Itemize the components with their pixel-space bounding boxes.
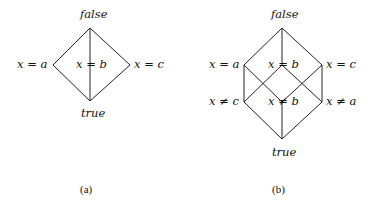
node-b-x-neq-c: x ≠ c xyxy=(209,96,239,108)
node-b-x-eq-c: x = c xyxy=(326,59,356,71)
lattice-diagrams xyxy=(0,0,373,206)
node-b-true: true xyxy=(272,147,296,159)
caption-a: (a) xyxy=(80,183,92,195)
caption-b: (b) xyxy=(272,183,285,195)
node-a-x-eq-b: x = b xyxy=(76,59,107,71)
node-b-x-neq-a: x ≠ a xyxy=(326,96,356,108)
diagram-b-edges xyxy=(244,28,322,139)
node-b-false: false xyxy=(271,9,299,21)
node-b-x-eq-b: x = b xyxy=(268,59,299,71)
node-b-x-neq-b: x ≠ b xyxy=(268,96,299,108)
node-a-x-eq-a: x = a xyxy=(17,59,47,71)
node-b-x-eq-a: x = a xyxy=(209,59,239,71)
node-a-false: false xyxy=(80,9,108,21)
node-a-true: true xyxy=(81,108,105,120)
node-a-x-eq-c: x = c xyxy=(134,59,164,71)
